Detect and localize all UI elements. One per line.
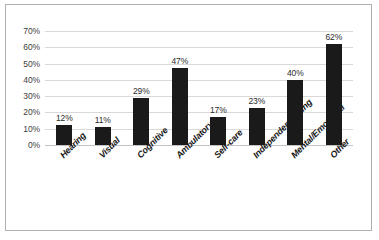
gridline: [45, 64, 353, 65]
bar-chart-figure: 0%10%20%30%40%50%60%70% 12%11%29%47%17%2…: [5, 4, 372, 231]
bar-column: 29%: [133, 31, 149, 145]
bar-value-label: 47%: [171, 56, 188, 66]
gridline: [45, 80, 353, 81]
y-axis-tick-label: 60%: [23, 42, 40, 52]
bar-value-label: 23%: [248, 96, 265, 106]
bar-column: 23%: [249, 31, 265, 145]
y-axis-tick-label: 10%: [23, 124, 40, 134]
bar-value-label: 40%: [287, 68, 304, 78]
y-axis-tick-label: 50%: [23, 59, 40, 69]
gridline: [45, 47, 353, 48]
clipped-caption-sliver: [0, 0, 379, 3]
bar-column: 11%: [95, 31, 111, 145]
bar-value-label: 29%: [133, 86, 150, 96]
bar: [249, 108, 265, 145]
y-axis-tick-label: 0%: [28, 140, 40, 150]
bar-column: 12%: [56, 31, 72, 145]
y-axis-tick-label: 70%: [23, 26, 40, 36]
gridline: [45, 31, 353, 32]
bar-value-label: 12%: [56, 113, 73, 123]
bar-column: 47%: [172, 31, 188, 145]
y-axis-tick-label: 30%: [23, 91, 40, 101]
bar-value-label: 11%: [95, 115, 111, 125]
bar-value-label: 62%: [325, 32, 342, 42]
y-axis-tick-label: 20%: [23, 107, 40, 117]
bar-value-label: 17%: [210, 105, 227, 115]
gridline: [45, 112, 353, 113]
bar: [133, 98, 149, 145]
bar: [172, 68, 188, 145]
bar: [326, 44, 342, 145]
y-axis-tick-label: 40%: [23, 75, 40, 85]
